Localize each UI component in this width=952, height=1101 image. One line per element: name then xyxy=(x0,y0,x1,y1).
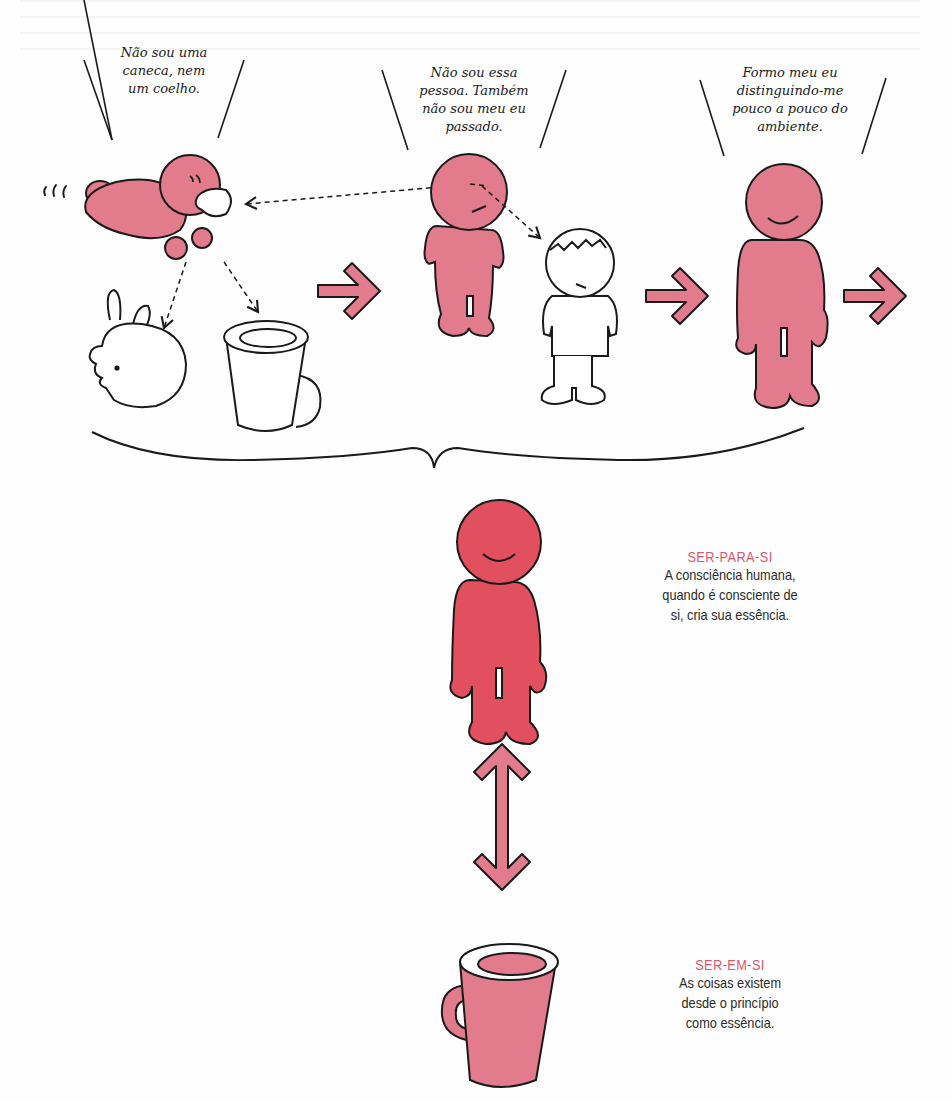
brace-icon xyxy=(92,428,804,468)
concept-line: A consciência humana, xyxy=(645,565,815,585)
bubble-line: pessoa. Também xyxy=(408,82,540,100)
concept-line: As coisas existem xyxy=(645,973,815,993)
double-arrow-icon xyxy=(474,744,530,890)
bubble-line: ambiente. xyxy=(720,118,860,136)
concept-line: si, cria sua essência. xyxy=(645,605,815,625)
concept-line: desde o princípio xyxy=(645,993,815,1013)
concept-being-for-itself: SER-PARA-SI A consciência humana, quando… xyxy=(630,548,830,625)
past-self-boy xyxy=(542,229,617,404)
being-in-itself-mug xyxy=(442,944,558,1087)
concept-description: As coisas existem desde o princípio como… xyxy=(645,973,815,1033)
bubble-line: caneca, nem xyxy=(112,62,216,80)
concept-line: quando é consciente de xyxy=(645,585,815,605)
being-for-itself-figure xyxy=(450,500,546,744)
concept-description: A consciência humana, quando é conscient… xyxy=(645,565,815,625)
bubble-line: Não sou uma xyxy=(112,44,216,62)
bubble-line: Formo meu eu xyxy=(720,64,860,82)
bubble-line: não sou meu eu xyxy=(408,100,540,118)
standing-person-smiling xyxy=(736,164,827,408)
bubble-line: um coelho. xyxy=(112,80,216,98)
bubble-line: Não sou essa xyxy=(408,64,540,82)
bubble-line: pouco a pouco do xyxy=(720,100,860,118)
concept-line: como essência. xyxy=(645,1013,815,1033)
bubble-line: passado. xyxy=(408,118,540,136)
speech-bubble-3: Formo meu eu distinguindo-me pouco a pou… xyxy=(720,64,860,136)
bubble-line: distinguindo-me xyxy=(720,82,860,100)
speech-bubble-2: Não sou essa pessoa. Também não sou meu … xyxy=(408,64,540,136)
concept-title: SER-EM-SI xyxy=(645,956,815,973)
concept-title: SER-PARA-SI xyxy=(645,548,815,565)
motion-marks-icon xyxy=(44,185,66,197)
concept-being-in-itself: SER-EM-SI As coisas existem desde o prin… xyxy=(630,956,830,1033)
speech-bubble-1: Não sou uma caneca, nem um coelho. xyxy=(112,44,216,98)
crawling-baby xyxy=(85,155,231,259)
standing-person-neutral xyxy=(425,154,508,336)
mug xyxy=(224,321,321,431)
illustration-page: Não sou uma caneca, nem um coelho. Não s… xyxy=(0,0,952,1101)
